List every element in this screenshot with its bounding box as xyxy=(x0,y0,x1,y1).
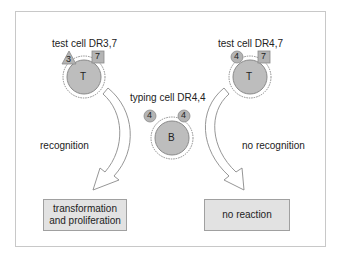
no-reaction-outcome-box: no reaction xyxy=(204,199,290,231)
transformation-outcome-box: transformation and proliferation xyxy=(43,199,127,231)
recognition-label: recognition xyxy=(40,140,89,151)
outcome-line-1: transformation xyxy=(53,203,117,215)
typing-cell-label: typing cell DR4,4 xyxy=(130,92,206,103)
marker-triangle-label: 3 xyxy=(66,54,71,64)
outcome-text: no reaction xyxy=(222,209,271,221)
test-cell-right-label: test cell DR4,7 xyxy=(218,38,283,49)
cell-letter: B xyxy=(168,132,175,143)
marker-right-label: 4 xyxy=(181,110,186,120)
recognition-arrow-icon xyxy=(93,88,130,190)
outcome-line-2: and proliferation xyxy=(49,215,121,227)
cell-letter: T xyxy=(80,71,86,82)
marker-circle-label: 4 xyxy=(234,51,239,61)
marker-square-label: 7 xyxy=(95,51,100,61)
no-recognition-label: no recognition xyxy=(242,140,305,151)
marker-square-label: 7 xyxy=(261,51,266,61)
no-recognition-arrow-icon xyxy=(205,88,244,190)
marker-left-label: 4 xyxy=(147,110,152,120)
test-cell-left-label: test cell DR3,7 xyxy=(52,38,117,49)
cell-letter: T xyxy=(246,71,252,82)
